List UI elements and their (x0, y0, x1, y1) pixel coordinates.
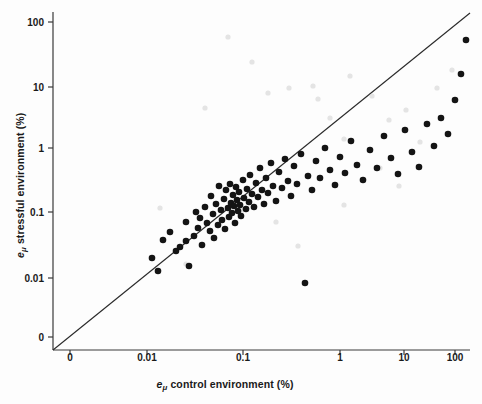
data-point (360, 177, 367, 184)
data-point (438, 115, 445, 122)
data-point (216, 183, 223, 190)
faint-data-point (265, 90, 270, 95)
x-tick-label: 0.1 (236, 352, 250, 363)
data-point (204, 220, 211, 227)
data-point (381, 133, 388, 140)
data-point (354, 162, 361, 169)
data-point (367, 147, 374, 154)
reference-line-group (53, 13, 470, 350)
data-point (291, 163, 298, 170)
data-point (302, 280, 309, 287)
data-point (199, 242, 206, 249)
faint-data-point (286, 85, 291, 90)
faint-data-point (310, 83, 315, 88)
x-tick-label: 0.01 (137, 352, 156, 363)
data-point (240, 177, 247, 184)
faint-data-point (449, 67, 454, 72)
data-point (255, 194, 262, 201)
data-point (424, 121, 431, 128)
data-point (183, 238, 190, 245)
data-point (211, 235, 218, 242)
one-to-one-reference-line (53, 13, 470, 350)
data-point (288, 193, 295, 200)
data-point (261, 201, 268, 208)
data-point (409, 149, 416, 156)
y-axis-title-text: stressful environment (%) (14, 113, 26, 247)
y-tick-label: 0 (0, 332, 44, 343)
data-point (458, 71, 465, 78)
faint-data-point (225, 34, 230, 39)
data-point (207, 228, 214, 235)
data-point (195, 225, 202, 232)
data-point (251, 204, 258, 211)
faint-data-point (386, 117, 391, 122)
faint-data-point (315, 96, 320, 101)
data-point (285, 178, 292, 185)
data-point (402, 127, 409, 134)
data-point (155, 268, 162, 275)
data-point (317, 175, 324, 182)
plot-canvas (0, 0, 482, 404)
data-point (197, 215, 204, 222)
data-point (191, 233, 198, 240)
data-point (268, 160, 275, 167)
data-point (395, 171, 402, 178)
data-point (298, 151, 305, 158)
data-point (236, 189, 243, 196)
faint-data-point (249, 59, 254, 64)
data-point (342, 170, 349, 177)
faint-data-point (403, 107, 408, 112)
y-tick-label: 10 (0, 82, 44, 93)
data-point (186, 263, 193, 270)
y-axis-title-subscript: μ (19, 247, 28, 252)
data-point (313, 158, 320, 165)
x-tick-label: 1 (337, 352, 343, 363)
data-point (167, 229, 174, 236)
faint-data-point (369, 93, 374, 98)
x-axis-title-text: control environment (%) (167, 378, 293, 390)
data-point (210, 211, 217, 218)
data-point (431, 143, 438, 150)
data-point (202, 204, 209, 211)
faint-data-point (347, 73, 352, 78)
data-point (237, 202, 244, 209)
data-point (193, 209, 200, 216)
data-point (249, 191, 256, 198)
data-point (218, 207, 225, 214)
data-point (238, 213, 245, 220)
faint-data-point (327, 115, 332, 120)
y-tick-label: 100 (0, 17, 44, 28)
data-point (213, 201, 220, 208)
data-point (257, 165, 264, 172)
data-point (244, 186, 251, 193)
faint-data-point (341, 136, 346, 141)
data-point (322, 145, 329, 152)
data-point (309, 187, 316, 194)
faint-data-point (341, 202, 346, 207)
data-point (265, 190, 272, 197)
data-point (416, 164, 423, 171)
x-tick-label: 0 (67, 352, 73, 363)
data-point (247, 172, 254, 179)
data-point (222, 226, 229, 233)
data-point (183, 219, 190, 226)
data-point (282, 156, 289, 163)
data-point (221, 196, 228, 203)
data-point (229, 210, 236, 217)
data-point (149, 255, 156, 262)
x-tick-label: 10 (398, 352, 409, 363)
faint-data-point (417, 139, 422, 144)
data-point (259, 187, 266, 194)
faint-data-point (396, 183, 401, 188)
data-point (219, 217, 226, 224)
data-point (223, 187, 230, 194)
data-point (463, 37, 470, 44)
data-point (327, 167, 334, 174)
data-point (246, 199, 253, 206)
data-point (305, 173, 312, 180)
data-point (177, 244, 184, 251)
y-tick-label: 0.01 (0, 273, 44, 284)
data-point (388, 155, 395, 162)
faint-data-point (157, 205, 162, 210)
data-points-group (149, 37, 470, 287)
